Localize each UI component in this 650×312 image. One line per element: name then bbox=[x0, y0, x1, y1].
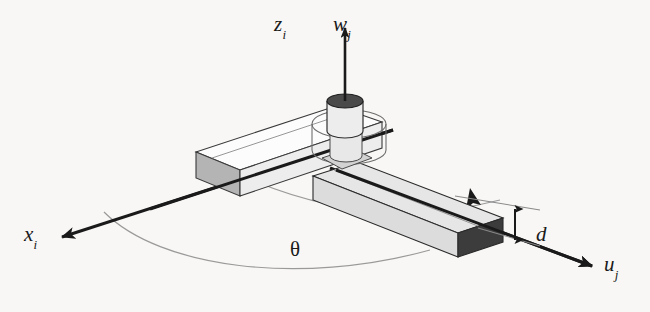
x-axis-label-sub: i bbox=[34, 237, 38, 252]
theta-angle-label: θ bbox=[290, 237, 300, 262]
x-axis-label-base: x bbox=[24, 222, 34, 246]
u-axis-label-sub: j bbox=[615, 267, 619, 282]
d-offset-label-base: d bbox=[536, 222, 547, 246]
z-axis-label-sub: i bbox=[282, 27, 286, 42]
w-axis-label: wj bbox=[333, 12, 351, 40]
d-offset-label: d bbox=[536, 222, 547, 247]
x-axis-label: xi bbox=[24, 222, 37, 250]
z-axis-label: zi bbox=[274, 12, 286, 40]
w-axis-label-sub: j bbox=[347, 27, 351, 42]
w-axis-label-base: w bbox=[333, 12, 347, 36]
figure-canvas bbox=[0, 0, 650, 312]
robot-joint-figure: zi wj xi uj d θ bbox=[0, 0, 650, 312]
u-axis-label-base: u bbox=[604, 252, 615, 276]
u-axis-label: uj bbox=[604, 252, 619, 280]
